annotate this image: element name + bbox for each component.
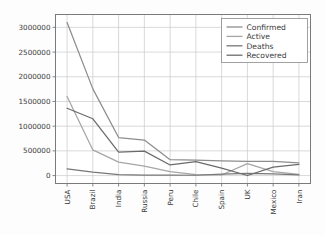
legend-label-recovered: Recovered <box>247 51 287 60</box>
x-axis: USABrazilIndiaRussiaPeruChileSpainUKMexi… <box>63 184 304 215</box>
x-tick-label-peru: Peru <box>166 190 175 206</box>
x-tick-label-spain: Spain <box>217 190 226 210</box>
x-tick-label-mexico: Mexico <box>269 190 278 215</box>
y-tick-label: 3000000 <box>18 23 50 32</box>
legend: ConfirmedActiveDeathsRecovered <box>222 19 308 63</box>
legend-label-confirmed: Confirmed <box>247 23 287 32</box>
y-tick-label: 0 <box>46 171 51 180</box>
x-tick-label-india: India <box>114 190 123 208</box>
x-tick-label-usa: USA <box>63 189 72 204</box>
y-tick-label: 2000000 <box>18 72 50 81</box>
y-axis: 0500000100000015000002000000250000030000… <box>18 23 55 180</box>
y-tick-label: 1000000 <box>18 122 50 131</box>
x-tick-label-brazil: Brazil <box>88 190 97 210</box>
y-tick-label: 1500000 <box>18 97 50 106</box>
x-tick-label-uk: UK <box>243 189 252 199</box>
chart-figure: 0500000100000015000002000000250000030000… <box>0 0 325 235</box>
legend-label-active: Active <box>247 32 271 41</box>
line-chart: 0500000100000015000002000000250000030000… <box>0 0 325 235</box>
x-tick-label-russia: Russia <box>140 190 149 213</box>
y-tick-label: 500000 <box>23 146 51 155</box>
legend-label-deaths: Deaths <box>247 42 274 51</box>
x-tick-label-chile: Chile <box>191 189 200 208</box>
x-tick-label-iran: Iran <box>295 190 304 204</box>
y-tick-label: 2500000 <box>18 48 50 57</box>
